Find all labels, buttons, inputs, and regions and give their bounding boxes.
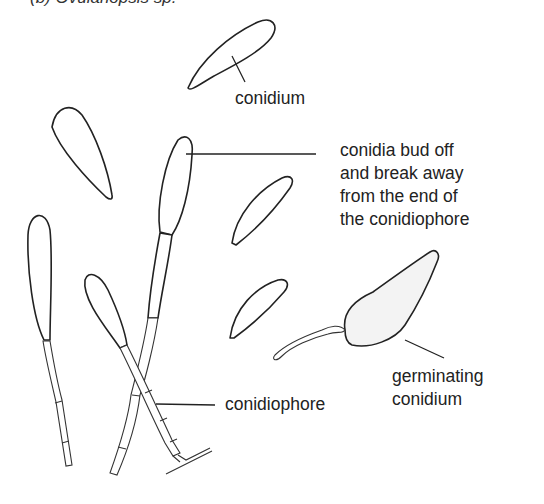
conidiophore-cross-conidium — [85, 275, 127, 348]
label-germinating-conidium: germinating conidium — [392, 365, 483, 411]
germinating-conidium-shape — [345, 251, 439, 346]
ovulariopsis-diagram: (b) Ovulariopsis sp. — [0, 0, 544, 504]
label-conidium: conidium — [235, 87, 305, 110]
label-bud-off: conidia bud off and break away from the … — [340, 139, 469, 231]
diagram-drawing — [0, 0, 544, 504]
conidiophore-left-stalk — [43, 341, 72, 466]
conidiophore-mid-conidium-upper — [159, 137, 192, 235]
conidium-shape-mid-1 — [232, 177, 292, 245]
germ-tube — [274, 326, 345, 359]
label-conidiophore: conidiophore — [225, 393, 325, 416]
conidium-shape-mid-2 — [230, 280, 287, 338]
conidiophore-left-conidium — [28, 215, 51, 340]
conidium-shape-top — [188, 20, 275, 89]
conidium-shape-left — [52, 108, 112, 199]
conidiophore-mid-conidium-lower — [148, 233, 172, 318]
leader-germinating — [405, 340, 444, 358]
leader-conidiophore — [156, 404, 215, 405]
figure-caption: (b) Ovulariopsis sp. — [30, 0, 176, 8]
